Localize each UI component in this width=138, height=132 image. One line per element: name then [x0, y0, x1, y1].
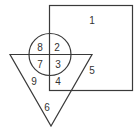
region-label-2: 2 — [54, 42, 60, 53]
region-label-3: 3 — [55, 59, 61, 70]
region-label-6: 6 — [44, 102, 50, 113]
region-label-9: 9 — [31, 76, 37, 87]
region-label-5: 5 — [89, 65, 95, 76]
region-label-8: 8 — [37, 42, 43, 53]
venn-diagram: 1 2 3 4 5 6 7 8 9 — [0, 0, 138, 132]
region-label-7: 7 — [37, 59, 43, 70]
region-label-1: 1 — [89, 15, 95, 26]
region-label-4: 4 — [55, 76, 61, 87]
